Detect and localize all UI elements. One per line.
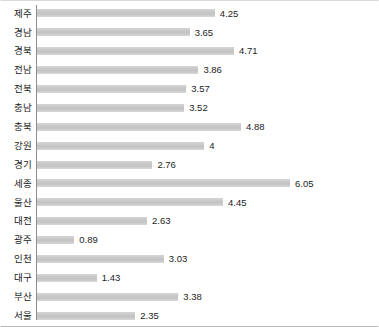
bar-row: 충남3.52	[1, 98, 378, 117]
category-label: 충남	[1, 103, 36, 113]
bar-track: 1.43	[36, 268, 378, 287]
bar-track: 2.76	[36, 155, 378, 174]
value-label: 4.45	[228, 198, 247, 208]
value-label: 3.57	[191, 84, 210, 94]
bar	[37, 161, 152, 169]
bar-track: 3.03	[36, 250, 378, 269]
value-label: 3.65	[195, 28, 214, 38]
bar-chart: 제주4.25경남3.65경북4.71전남3.86전북3.57충남3.52충북4.…	[0, 0, 379, 327]
category-label: 광주	[1, 235, 36, 245]
category-label: 대전	[1, 216, 36, 226]
bar-track: 3.38	[36, 287, 378, 306]
bar-row: 광주0.89	[1, 231, 378, 250]
bar-row: 제주4.25	[1, 4, 378, 23]
category-label: 경남	[1, 28, 36, 38]
bar-track: 3.57	[36, 80, 378, 99]
category-label: 부산	[1, 292, 36, 302]
bar-track: 4.25	[36, 4, 378, 23]
bar-track: 0.89	[36, 231, 378, 250]
category-label: 서울	[1, 311, 36, 321]
bar	[37, 312, 135, 320]
value-label: 3.86	[203, 65, 222, 75]
bar-track: 6.05	[36, 174, 378, 193]
bar-row: 충북4.88	[1, 117, 378, 136]
bar-row: 대구1.43	[1, 268, 378, 287]
bar-row: 강원4	[1, 136, 378, 155]
value-label: 2.76	[157, 160, 176, 170]
value-label: 6.05	[295, 179, 314, 189]
category-label: 인천	[1, 254, 36, 264]
bar-track: 4.88	[36, 117, 378, 136]
bar-row: 경기2.76	[1, 155, 378, 174]
bar	[37, 28, 190, 36]
bar	[37, 104, 184, 112]
category-label: 경북	[1, 46, 36, 56]
category-label: 전남	[1, 65, 36, 75]
bar	[37, 274, 97, 282]
bar	[37, 293, 178, 301]
bar-row: 전남3.86	[1, 61, 378, 80]
bar-track: 3.52	[36, 98, 378, 117]
bar-row: 전북3.57	[1, 80, 378, 99]
bar-track: 2.35	[36, 306, 378, 325]
value-label: 3.03	[169, 254, 188, 264]
bar-track: 4.71	[36, 42, 378, 61]
category-label: 강원	[1, 141, 36, 151]
bar-track: 2.63	[36, 212, 378, 231]
category-axis-line	[36, 5, 37, 320]
value-label: 2.35	[140, 311, 159, 321]
bar-track: 3.86	[36, 61, 378, 80]
bar	[37, 179, 290, 187]
value-label: 4.25	[220, 9, 239, 19]
category-label: 전북	[1, 84, 36, 94]
category-label: 울산	[1, 198, 36, 208]
bar	[37, 198, 223, 206]
category-label: 대구	[1, 273, 36, 283]
value-label: 3.38	[183, 292, 202, 302]
value-label: 3.52	[189, 103, 208, 113]
bar-track: 3.65	[36, 23, 378, 42]
bar-row: 대전2.63	[1, 212, 378, 231]
bar-track: 4.45	[36, 193, 378, 212]
plot-area: 제주4.25경남3.65경북4.71전남3.86전북3.57충남3.52충북4.…	[1, 4, 378, 320]
bar	[37, 255, 164, 263]
bar-row: 인천3.03	[1, 250, 378, 269]
value-label: 4.71	[239, 46, 258, 56]
bar-row: 서울2.35	[1, 306, 378, 325]
value-label: 0.89	[79, 235, 98, 245]
bar-row: 경남3.65	[1, 23, 378, 42]
bar-row: 부산3.38	[1, 287, 378, 306]
bar	[37, 66, 198, 74]
category-label: 충북	[1, 122, 36, 132]
category-label: 세종	[1, 179, 36, 189]
bar-track: 4	[36, 136, 378, 155]
bar	[37, 9, 215, 17]
category-label: 경기	[1, 160, 36, 170]
value-label: 1.43	[102, 273, 121, 283]
bar	[37, 123, 241, 131]
value-label: 2.63	[152, 216, 171, 226]
bar	[37, 217, 147, 225]
value-label: 4	[209, 141, 214, 151]
bar-row: 세종6.05	[1, 174, 378, 193]
bar	[37, 236, 74, 244]
bar	[37, 142, 204, 150]
bar	[37, 47, 234, 55]
category-label: 제주	[1, 9, 36, 19]
bar-row: 경북4.71	[1, 42, 378, 61]
bar	[37, 85, 186, 93]
value-label: 4.88	[246, 122, 265, 132]
bar-row: 울산4.45	[1, 193, 378, 212]
